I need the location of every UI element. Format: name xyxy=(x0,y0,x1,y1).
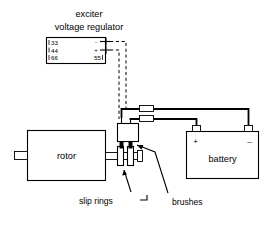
exciter-voltage-regulator: 33 44 66 55 - + xyxy=(47,38,111,64)
battery-negative-sign: – xyxy=(247,137,252,146)
brush-2 xyxy=(129,142,133,149)
regulator-minus-sign: - xyxy=(95,39,97,45)
battery-positive-sign: + xyxy=(193,137,198,146)
slip-ring-disc-1 xyxy=(118,147,124,166)
inline-connector-lower xyxy=(140,116,154,122)
rotor-label: rotor xyxy=(57,151,76,161)
regulator-harness-dashed xyxy=(110,42,126,120)
inline-connector-upper xyxy=(140,106,154,112)
regulator-plus-sign: + xyxy=(94,47,98,53)
figure-title-line1: exciter xyxy=(75,9,102,19)
brush-assembly xyxy=(118,118,139,149)
slip-rings-leader-elbow xyxy=(140,195,147,200)
regulator-terminal-label-33: 33 xyxy=(51,39,58,46)
slip-ring-end-cap xyxy=(138,151,143,162)
harness-dashed-minus xyxy=(110,42,126,110)
rotor-shaft-right xyxy=(106,153,118,160)
diagram-canvas: exciter voltage regulator 33 44 66 55 - … xyxy=(0,0,266,227)
wiring-diagram: exciter voltage regulator 33 44 66 55 - … xyxy=(0,0,266,227)
regulator-terminal-label-44: 44 xyxy=(51,47,58,54)
slip-rings-label: slip rings xyxy=(79,196,113,206)
slip-ring-disc-2 xyxy=(128,147,134,166)
slip-rings-assembly xyxy=(118,147,143,166)
figure-title-line2: voltage regulator xyxy=(55,22,123,32)
brush-holder-body xyxy=(118,124,139,142)
battery-wiring xyxy=(122,106,249,126)
rotor: rotor xyxy=(15,131,118,181)
harness-dashed-plus xyxy=(110,50,119,119)
battery-label: battery xyxy=(208,154,236,164)
regulator-terminal-label-55: 55 xyxy=(94,54,101,61)
brushes-label: brushes xyxy=(172,197,203,207)
battery-terminal-post-negative xyxy=(245,126,253,132)
brush-1 xyxy=(120,142,124,149)
regulator-terminal-label-66: 66 xyxy=(51,54,58,61)
battery: battery + – xyxy=(187,126,259,179)
rotor-shaft-left xyxy=(15,152,28,160)
battery-terminal-post-positive xyxy=(193,126,201,132)
